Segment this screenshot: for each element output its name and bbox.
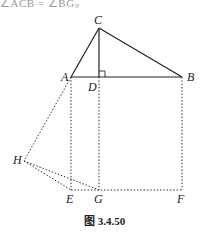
label-c: C: [94, 13, 103, 27]
label-h: H: [12, 153, 23, 167]
label-g: G: [94, 192, 103, 206]
label-b: B: [187, 70, 195, 84]
segment-he: [24, 161, 71, 190]
right-angle-marker: [99, 71, 105, 77]
label-f: F: [176, 192, 185, 206]
label-e: E: [65, 192, 74, 206]
figure-caption: 图 3.4.50: [84, 215, 126, 227]
triangle-abc: [71, 28, 182, 77]
segment-ah: [24, 77, 71, 161]
label-d: D: [87, 80, 97, 94]
label-a: A: [60, 70, 69, 84]
geometry-figure: C A D B H E G F 图 3.4.50: [0, 0, 204, 237]
segment-hg: [24, 161, 99, 190]
segment-ca: [71, 28, 99, 77]
dashed-construction: [24, 77, 182, 190]
segment-cb: [99, 28, 182, 77]
